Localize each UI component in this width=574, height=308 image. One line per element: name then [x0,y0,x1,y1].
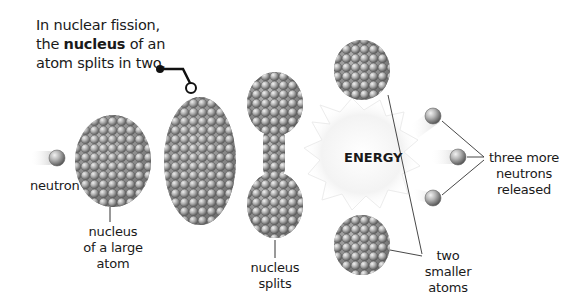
label-two-atoms: two smaller atoms [418,248,478,296]
intro-text: the [36,36,64,52]
large-nucleus [75,115,151,207]
smaller-atom-bottom [334,215,390,275]
label-line: two [418,248,478,264]
label-energy: ENERGY [344,150,402,165]
intro-caption: In nuclear fission, the nucleus of an at… [36,16,166,73]
label-line: three more [484,150,564,166]
intro-line-1: In nuclear fission, [36,16,166,35]
label-line: splits [245,276,305,292]
label-line: nucleus [245,260,305,276]
intro-line-3: atom splits in two. [36,54,166,73]
released-neutrons [410,108,466,206]
label-three-neutrons: three more neutrons released [484,150,564,198]
label-line: of a large [78,240,148,256]
label-nucleus-large: nucleus of a large atom [78,224,148,272]
smaller-atom-top [334,40,390,100]
label-nucleus-splits: nucleus splits [245,260,305,292]
incoming-neutron [30,150,65,166]
splitting-nucleus [247,72,303,238]
intro-line-2: the nucleus of an [36,35,166,54]
label-line: atom [78,256,148,272]
nucleus-emphasis: nucleus [64,36,126,52]
label-line: nucleus [78,224,148,240]
intro-text: of an [125,36,165,52]
label-line: atoms [418,280,478,296]
label-line: released [484,182,564,198]
elongated-nucleus [164,97,236,225]
label-line: neutrons [484,166,564,182]
label-line: smaller [418,264,478,280]
label-neutron: neutron [30,178,79,194]
